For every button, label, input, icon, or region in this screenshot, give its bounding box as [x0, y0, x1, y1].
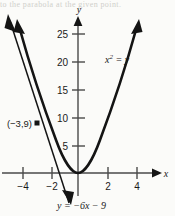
- tangency-point-group: (−3,9): [7, 118, 40, 129]
- axes-group: [2, 16, 162, 196]
- x-tick-label-neg2: −2: [46, 181, 58, 192]
- y-tick-labels: 5 10 15 20 25: [57, 29, 69, 152]
- x-tick-label-pos2: 2: [105, 181, 111, 192]
- tangent-line-equation-label: y = −6x − 9: [56, 200, 106, 211]
- x-tick-label-pos4: 4: [134, 181, 140, 192]
- parabola-equation-rest: = y: [113, 54, 130, 65]
- tangency-point-label: (−3,9): [7, 118, 32, 129]
- tangency-point-marker: [35, 121, 40, 126]
- y-axis-arrowhead: [74, 16, 83, 26]
- x-axis-label: x: [163, 168, 169, 179]
- y-tick-label-5: 5: [62, 141, 68, 152]
- y-tick-label-20: 20: [57, 57, 69, 68]
- y-tick-label-10: 10: [57, 113, 69, 124]
- x-tick-labels: −4 −2 2 4: [17, 181, 140, 192]
- parabola-arrowhead-right: [131, 19, 143, 34]
- y-tick-label-15: 15: [57, 85, 69, 96]
- parabola-equation-label: x2 = y: [104, 53, 130, 65]
- graph-figure: −4 −2 2 4 5 10 15 20 25 x y (−3,9) x2 = …: [0, 0, 175, 216]
- x-axis-arrowhead: [152, 169, 162, 178]
- y-tick-label-25: 25: [57, 29, 69, 40]
- tangent-line-group: [5, 14, 75, 205]
- x-tick-label-neg4: −4: [17, 181, 29, 192]
- y-axis-label: y: [76, 4, 82, 15]
- tangent-line: [10, 21, 69, 203]
- parabola-arrowhead-left: [14, 19, 26, 34]
